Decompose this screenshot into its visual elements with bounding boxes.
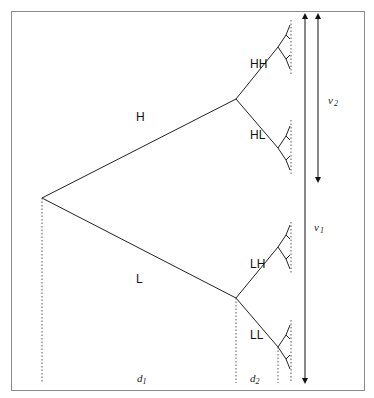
- tree-branches: [42, 47, 278, 347]
- leaf-forks: [278, 25, 290, 369]
- label-d1: d1: [137, 372, 147, 386]
- label-d2: d2: [250, 372, 260, 386]
- label-H: H: [136, 110, 145, 124]
- label-L: L: [136, 272, 143, 286]
- label-LL: LL: [250, 328, 264, 342]
- label-v1: v1: [314, 221, 324, 235]
- branch-H-HH: [236, 47, 278, 99]
- label-LH: LH: [250, 257, 265, 271]
- diagram-frame: [12, 12, 365, 391]
- branch-L-LH: [236, 247, 278, 298]
- tree-diagram: H L HH HL LH LL d1 d2 v1 v2: [0, 0, 374, 398]
- label-HL: HL: [250, 128, 266, 142]
- label-v2: v2: [328, 94, 338, 108]
- label-HH: HH: [250, 57, 267, 71]
